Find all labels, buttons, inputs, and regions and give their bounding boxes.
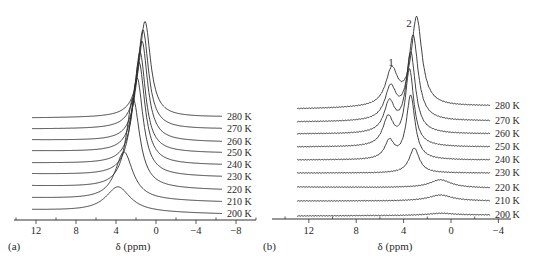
temperature-label: 210 K: [227, 196, 253, 207]
temperature-label: 230 K: [227, 171, 253, 182]
x-axis-title-b: δ (ppm): [378, 240, 413, 253]
temperature-label: 220 K: [227, 184, 253, 195]
spectrum-trace: [297, 213, 490, 216]
temperature-label: 220 K: [495, 182, 521, 193]
tick-label: 8: [354, 225, 359, 236]
temperature-label: 200 K: [227, 208, 253, 219]
spectra-traces-b: [297, 16, 490, 216]
temperature-label: 240 K: [495, 154, 521, 165]
spectrum-trace: [32, 41, 222, 141]
spectra-traces-a: [32, 22, 222, 214]
temperature-label: 270 K: [227, 123, 253, 134]
tick-label: 12: [31, 225, 42, 236]
spectrum-trace: [297, 195, 490, 202]
peak-2-annotation: 2: [406, 17, 412, 29]
panel-b: 200 K210 K220 K230 K240 K250 K260 K270 K…: [263, 16, 521, 253]
tick-label: 0: [153, 225, 158, 236]
temperature-label: 270 K: [495, 115, 521, 126]
peak-1-annotation: 1: [388, 56, 394, 68]
spectrum-trace: [32, 22, 222, 118]
temperature-label: 210 K: [495, 195, 521, 206]
temperature-label: 240 K: [227, 159, 253, 170]
spectrum-trace: [297, 35, 490, 122]
temperature-label: 200 K: [495, 209, 521, 220]
spectrum-trace: [32, 30, 222, 129]
temperature-label: 260 K: [227, 136, 253, 147]
tick-label: 8: [73, 225, 78, 236]
x-axis-title-a: δ (ppm): [116, 240, 151, 253]
tick-label: 0: [448, 225, 453, 236]
temperature-label: 280 K: [495, 100, 521, 111]
tick-label: −8: [230, 225, 241, 236]
tick-label: 12: [304, 225, 315, 236]
temperature-label: 280 K: [227, 111, 253, 122]
temperature-label: 250 K: [227, 147, 253, 158]
tick-label: 4: [113, 225, 119, 236]
tick-label: 4: [401, 225, 407, 236]
tick-label: −4: [190, 225, 202, 236]
temperature-label: 230 K: [495, 167, 521, 178]
panel-label-a: (a): [8, 240, 21, 253]
temperature-label: 250 K: [495, 141, 521, 152]
panel-a: 200 K210 K220 K230 K240 K250 K260 K270 K…: [8, 22, 256, 253]
tick-label: −4: [493, 225, 505, 236]
spectrum-trace: [297, 148, 490, 173]
panel-label-b: (b): [263, 240, 276, 253]
temperature-labels-b: 200 K210 K220 K230 K240 K250 K260 K270 K…: [495, 100, 521, 220]
spectrum-trace: [32, 98, 222, 189]
spectrum-trace: [297, 179, 490, 187]
temperature-labels-a: 200 K210 K220 K230 K240 K250 K260 K270 K…: [227, 111, 253, 219]
temperature-label: 260 K: [495, 128, 521, 139]
nmr-figure: 200 K210 K220 K230 K240 K250 K260 K270 K…: [0, 0, 535, 265]
